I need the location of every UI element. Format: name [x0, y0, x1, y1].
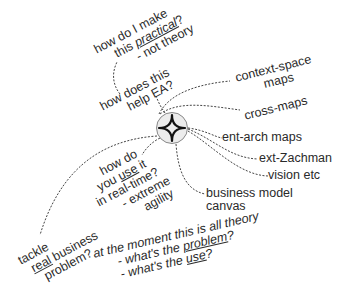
link-center-to-bmc [176, 144, 205, 194]
node-theory-qmark2: ? [204, 246, 214, 261]
node-vision-label: vision etc [268, 169, 320, 182]
link-center-to-ent-arch [188, 128, 222, 138]
node-ext-zachman-label: ext-Zachman [259, 152, 332, 165]
node-ent-arch-maps[interactable]: ent-arch maps [222, 131, 302, 144]
four-point-star-icon [156, 112, 188, 144]
node-ent-arch-label: ent-arch maps [222, 131, 302, 144]
center-node[interactable] [156, 112, 188, 144]
node-theory-qmark: ? [225, 228, 235, 243]
node-business-model-canvas[interactable]: business model canvas [206, 187, 293, 213]
node-ext-zachman[interactable]: ext-Zachman [259, 152, 332, 165]
node-vision-etc[interactable]: vision etc [268, 169, 320, 182]
